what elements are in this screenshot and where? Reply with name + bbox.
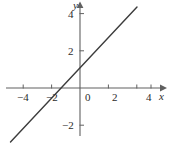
x-axis-label: x bbox=[159, 91, 164, 102]
x-tick-label-2: 2 bbox=[112, 92, 118, 103]
y-axis-label: y bbox=[73, 0, 78, 11]
plot-line-y-equals-x-plus-2 bbox=[11, 7, 138, 142]
x-tick-label-zero: 0 bbox=[85, 92, 91, 103]
coordinate-plane-figure: −4 −2 0 2 4 4 2 −2 x y bbox=[0, 0, 171, 145]
y-tick-label-neg2: −2 bbox=[62, 120, 74, 131]
x-tick-label-neg4: −4 bbox=[17, 92, 29, 103]
x-tick-label-4: 4 bbox=[146, 92, 152, 103]
y-tick-label-2: 2 bbox=[68, 46, 74, 57]
x-tick-label-neg2: −2 bbox=[46, 92, 58, 103]
graph-canvas bbox=[0, 0, 171, 145]
